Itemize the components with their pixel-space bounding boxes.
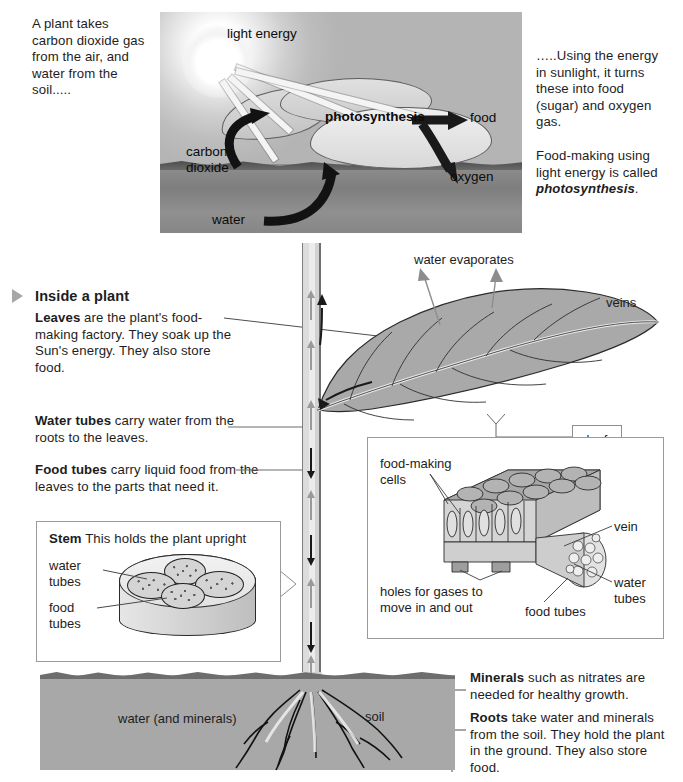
roots-drawing	[0, 0, 683, 782]
block-roots: Roots take water and minerals from the s…	[470, 710, 670, 776]
block-minerals-term: Minerals	[470, 670, 524, 685]
block-minerals: Minerals such as nitrates are needed for…	[470, 670, 680, 703]
block-roots-term: Roots	[470, 710, 508, 725]
label-soil: soil	[365, 709, 385, 725]
label-water-and-minerals: water (and minerals)	[118, 711, 237, 727]
